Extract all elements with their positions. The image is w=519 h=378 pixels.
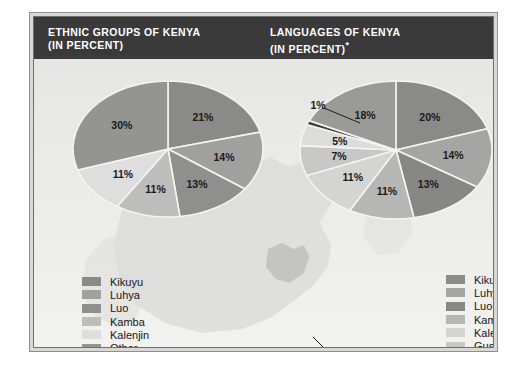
pie-chart-ethnic-groups: 21%14%13%11%11%30% xyxy=(70,79,266,223)
pie-value-label-kamba: 11% xyxy=(145,183,165,195)
legend-item[interactable]: Kikuyu xyxy=(82,275,149,288)
infographic-frame: ETHNIC GROUPS OF KENYA(IN PERCENT) LANGU… xyxy=(29,12,498,352)
pie-value-label-kalenjin: 11% xyxy=(113,168,133,180)
legend-item[interactable]: Luo xyxy=(82,302,149,315)
legend-swatch-gusii xyxy=(446,342,465,347)
panel-body: 21%14%13%11%11%30% 20%14%13%11%11%7%5%1%… xyxy=(34,59,493,347)
legend-item[interactable]: Luo xyxy=(446,300,493,313)
legend-item[interactable]: Kikuyu xyxy=(446,273,493,286)
chart-title-ethnic-line2: (IN PERCENT) xyxy=(48,39,123,51)
legend-swatch-kamba xyxy=(446,315,465,324)
legend-swatch-kikuyu xyxy=(82,277,101,286)
legend-item[interactable]: Kamba xyxy=(82,315,149,328)
pie-value-label-other: 30% xyxy=(111,119,132,131)
legend-label-kamba: Kamba xyxy=(110,316,145,328)
legend-ethnic-groups: KikuyuLuhyaLuoKambaKalenjinOther xyxy=(82,275,149,347)
pie-value-label-kikuyu: 20% xyxy=(419,111,440,123)
legend-swatch-luhya xyxy=(82,290,101,299)
pie-value-label-swahili: 1% xyxy=(310,99,325,111)
legend-item[interactable]: Luhya xyxy=(446,286,493,299)
pie-value-label-meru: 5% xyxy=(332,135,347,147)
chart-title-ethnic-line1: ETHNIC GROUPS OF KENYA xyxy=(48,26,201,38)
legend-swatch-luhya xyxy=(446,288,465,297)
pie-value-label-luhya: 14% xyxy=(213,151,234,163)
legend-swatch-kalenjin xyxy=(82,330,101,339)
legend-label-other: Other xyxy=(110,342,138,347)
pie-value-label-kikuyu: 21% xyxy=(192,111,213,123)
infographic-page: ETHNIC GROUPS OF KENYA(IN PERCENT) LANGU… xyxy=(0,0,519,378)
pie-ethnic-slices xyxy=(73,81,263,217)
legend-item[interactable]: Kalenjin xyxy=(82,328,149,341)
legend-swatch-kamba xyxy=(82,317,101,326)
legend-swatch-luo xyxy=(446,302,465,311)
legend-item[interactable]: Other xyxy=(82,341,149,347)
pie-value-label-luo: 13% xyxy=(186,178,207,190)
legend-item[interactable]: Luhya xyxy=(82,288,149,301)
pie-value-label-kamba: 11% xyxy=(377,185,397,197)
legend-label-luhya: Luhya xyxy=(110,289,140,301)
chart-title-languages-line1: LANGUAGES OF KENYA xyxy=(270,26,401,38)
pie-value-label-luo: 13% xyxy=(418,178,439,190)
pie-value-label-luhya: 14% xyxy=(443,149,464,161)
legend-label-kalenjin: Kalenjin xyxy=(474,327,493,339)
legend-item[interactable]: Kalenjin xyxy=(446,326,493,339)
legend-swatch-luo xyxy=(82,304,101,313)
chart-title-languages-asterisk: * xyxy=(345,40,349,50)
chart-title-ethnic: ETHNIC GROUPS OF KENYA(IN PERCENT) xyxy=(48,26,201,51)
pie-value-label-gusii: 7% xyxy=(332,150,347,162)
pie-value-label-kalenjin: 11% xyxy=(343,171,363,183)
legend-label-luo: Luo xyxy=(474,300,492,312)
legend-languages: KikuyuLuhyaLuoKambaKalenjinGusiiMeruSwah… xyxy=(446,273,493,347)
legend-swatch-kikuyu xyxy=(446,275,465,284)
legend-label-kikuyu: Kikuyu xyxy=(474,274,493,286)
infographic-frame-inner: ETHNIC GROUPS OF KENYA(IN PERCENT) LANGU… xyxy=(33,16,494,348)
pie-chart-languages: 20%14%13%11%11%7%5%1%18% xyxy=(296,79,493,225)
chart-title-languages-line2: (IN PERCENT) xyxy=(270,42,345,54)
legend-swatch-kalenjin xyxy=(446,328,465,337)
kenya-map-label: KENYA xyxy=(323,345,356,347)
pie-value-label-other: 18% xyxy=(355,109,376,121)
legend-item[interactable]: Gusii xyxy=(446,339,493,347)
header-bar: ETHNIC GROUPS OF KENYA(IN PERCENT) LANGU… xyxy=(34,17,493,59)
legend-swatch-other xyxy=(82,344,101,347)
legend-label-kamba: Kamba xyxy=(474,314,493,326)
legend-label-gusii: Gusii xyxy=(474,340,493,347)
legend-item[interactable]: Kamba xyxy=(446,313,493,326)
legend-label-kalenjin: Kalenjin xyxy=(110,329,149,341)
pie-ethnic-svg xyxy=(70,79,266,219)
legend-label-kikuyu: Kikuyu xyxy=(110,276,143,288)
legend-label-luo: Luo xyxy=(110,302,128,314)
legend-label-luhya: Luhya xyxy=(474,287,493,299)
chart-title-languages: LANGUAGES OF KENYA(IN PERCENT)* xyxy=(270,26,401,55)
